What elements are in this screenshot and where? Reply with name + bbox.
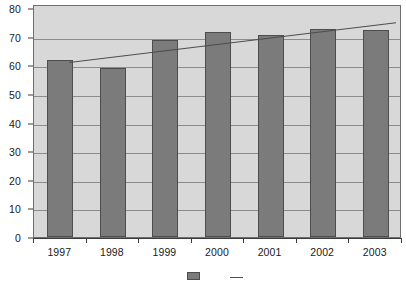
y-axis-tick-mark (28, 152, 33, 153)
x-axis-tick-label: 2001 (258, 246, 282, 258)
x-axis-tick-label: 2003 (363, 246, 387, 258)
bar-chart: 01020304050607080 1997199819992000200120… (0, 0, 406, 281)
y-axis: 01020304050607080 (0, 0, 28, 281)
y-axis-tick-label: 50 (9, 89, 21, 101)
x-axis-tick-mark (348, 238, 349, 243)
y-axis-tick-mark (28, 180, 33, 181)
y-axis-tick-label: 0 (15, 232, 21, 244)
x-axis-tick-mark (296, 238, 297, 243)
x-axis-tick-mark (33, 238, 34, 243)
bar (205, 32, 231, 237)
legend-entry (230, 271, 247, 281)
bar (47, 60, 73, 237)
y-axis-tick-label: 40 (9, 118, 21, 130)
bar (100, 68, 126, 237)
bar (363, 30, 389, 237)
x-axis-tick-label: 1997 (47, 246, 71, 258)
x-axis-tick-mark (138, 238, 139, 243)
bar (258, 35, 284, 237)
x-axis-tick-label: 1999 (153, 246, 177, 258)
x-axis-tick-label: 2000 (205, 246, 229, 258)
y-axis-tick-label: 30 (9, 146, 21, 158)
x-axis-tick-mark (86, 238, 87, 243)
plot-area (33, 5, 401, 238)
y-axis-tick-label: 20 (9, 175, 21, 187)
x-axis-tick-mark (191, 238, 192, 243)
x-axis-line (33, 238, 401, 239)
x-axis-tick-label: 2002 (310, 246, 334, 258)
y-axis-tick-mark (28, 123, 33, 124)
y-axis-tick-mark (28, 9, 33, 10)
bar (310, 29, 336, 237)
x-axis-tick-mark (243, 238, 244, 243)
x-axis: 1997199819992000200120022003 (33, 246, 401, 262)
legend-swatch-icon (187, 272, 200, 280)
y-axis-tick-mark (28, 94, 33, 95)
legend-swatch-icon (230, 277, 243, 279)
y-axis-tick-label: 70 (9, 32, 21, 44)
y-axis-tick-label: 80 (9, 3, 21, 15)
y-axis-tick-mark (28, 66, 33, 67)
legend-entry (187, 271, 204, 281)
bar (152, 40, 178, 238)
y-axis-tick-mark (28, 37, 33, 38)
x-axis-tick-mark (401, 238, 402, 243)
y-axis-tick-mark (28, 209, 33, 210)
x-axis-tick-label: 1998 (100, 246, 124, 258)
y-axis-tick-label: 60 (9, 60, 21, 72)
y-axis-tick-label: 10 (9, 203, 21, 215)
chart-legend (33, 271, 401, 281)
